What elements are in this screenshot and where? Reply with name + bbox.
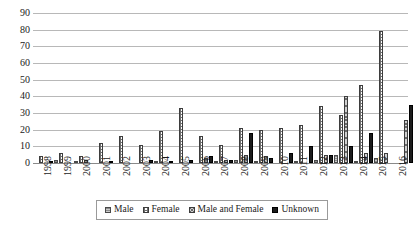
x-axis-tick: 2002 xyxy=(112,165,132,201)
x-axis-tick: 2004 xyxy=(151,165,171,201)
bar-male xyxy=(54,160,58,163)
x-axis-labels: 1998199920002001200220032004200520062007… xyxy=(33,165,408,201)
x-axis-tick: 2003 xyxy=(132,165,152,201)
legend-item-unknown[interactable]: Unknown xyxy=(272,205,318,215)
x-axis-tick: 2014 xyxy=(349,165,369,201)
x-axis-tick: 1998 xyxy=(33,165,53,201)
bar-unknown xyxy=(409,105,413,163)
bar-unknown xyxy=(369,133,373,163)
x-axis-tick-label: 2014 xyxy=(359,156,369,176)
x-axis-tick: 2010 xyxy=(270,165,290,201)
bar-chart: 9080706050403020100 19981999200020012002… xyxy=(0,0,416,236)
chart-legend: MaleFemaleMale and FemaleUnknown xyxy=(96,200,328,220)
y-axis-tick-label: 50 xyxy=(0,75,30,85)
bar-group xyxy=(293,13,313,163)
y-axis-tick-label: 10 xyxy=(0,141,30,151)
bar-male xyxy=(314,160,318,163)
x-axis-tick-label: 2000 xyxy=(82,156,92,176)
y-axis-tick-label: 30 xyxy=(0,108,30,118)
bar-unknown xyxy=(349,146,353,163)
legend-label: Male xyxy=(114,205,134,215)
x-axis-tick: 2008 xyxy=(230,165,250,201)
legend-label: Female xyxy=(152,205,180,215)
bar-male xyxy=(354,161,358,163)
bar-group xyxy=(73,13,93,163)
y-axis-tick-label: 80 xyxy=(0,25,30,35)
x-axis-tick: 2000 xyxy=(72,165,92,201)
bar-unknown xyxy=(329,155,333,163)
x-axis-tick-label: 2005 xyxy=(181,156,191,176)
x-axis-tick-label: 2013 xyxy=(339,156,349,176)
y-axis-labels: 9080706050403020100 xyxy=(0,13,30,163)
bar-group xyxy=(313,13,333,163)
x-axis-tick: 2012 xyxy=(309,165,329,201)
y-axis-tick-label: 60 xyxy=(0,58,30,68)
x-axis-tick-label: 2011 xyxy=(299,156,309,176)
legend-swatch-icon xyxy=(143,207,149,213)
x-axis-tick-label: 2009 xyxy=(260,156,270,176)
x-axis-tick: 2001 xyxy=(92,165,112,201)
y-axis-tick-label: 70 xyxy=(0,41,30,51)
x-axis-tick-label: 2003 xyxy=(142,156,152,176)
x-axis-tick-label: 2015 xyxy=(378,156,388,176)
bar-group xyxy=(233,13,253,163)
bar-group xyxy=(173,13,193,163)
bar-group xyxy=(393,13,413,163)
bar-unknown xyxy=(309,146,313,163)
bar-group xyxy=(213,13,233,163)
bar-group xyxy=(253,13,273,163)
x-axis-tick: 2013 xyxy=(329,165,349,201)
x-axis-tick: 2015 xyxy=(368,165,388,201)
x-axis-tick-label: 2010 xyxy=(280,156,290,176)
bar-male xyxy=(334,155,338,163)
y-axis-tick-label: 20 xyxy=(0,125,30,135)
bar-male xyxy=(74,161,78,163)
x-axis-tick-label: 2007 xyxy=(220,156,230,176)
legend-item-male[interactable]: Male xyxy=(105,205,134,215)
legend-item-male-and-female[interactable]: Male and Female xyxy=(189,205,264,215)
legend-swatch-icon xyxy=(272,207,278,213)
bar-female xyxy=(179,108,183,163)
plot-area xyxy=(33,13,408,163)
y-axis-tick-label: 40 xyxy=(0,91,30,101)
bar-male xyxy=(154,161,158,163)
x-axis-tick-label: 1998 xyxy=(43,156,53,176)
bar-male xyxy=(234,160,238,163)
bar-female xyxy=(319,106,323,163)
x-axis-tick: 2007 xyxy=(211,165,231,201)
bar-group xyxy=(113,13,133,163)
y-axis-tick-label: 0 xyxy=(0,158,30,168)
bar-group xyxy=(33,13,53,163)
x-axis-tick-label: 2008 xyxy=(240,156,250,176)
bar-group xyxy=(353,13,373,163)
bar-group xyxy=(273,13,293,163)
legend-label: Male and Female xyxy=(198,205,264,215)
x-axis-tick: 2006 xyxy=(191,165,211,201)
x-axis-tick-label: 2016 xyxy=(398,156,408,176)
bar-group xyxy=(93,13,113,163)
y-axis-tick-label: 90 xyxy=(0,8,30,18)
bar-groups xyxy=(33,13,408,163)
x-axis-tick: 2005 xyxy=(171,165,191,201)
bar-male-and-female xyxy=(344,96,348,163)
bar-male xyxy=(254,161,258,163)
bar-female xyxy=(379,31,383,163)
legend-label: Unknown xyxy=(281,205,318,215)
bar-group xyxy=(153,13,173,163)
x-axis-tick-label: 2012 xyxy=(319,156,329,176)
bar-group xyxy=(333,13,353,163)
bar-male xyxy=(294,161,298,163)
x-axis-tick-label: 2001 xyxy=(102,156,112,176)
bar-female xyxy=(359,85,363,163)
bar-group xyxy=(133,13,153,163)
x-axis-tick-label: 1999 xyxy=(63,156,73,176)
x-axis-tick-label: 2006 xyxy=(201,156,211,176)
bar-group xyxy=(53,13,73,163)
x-axis-tick-label: 2004 xyxy=(161,156,171,176)
legend-item-female[interactable]: Female xyxy=(143,205,180,215)
legend-swatch-icon xyxy=(189,207,195,213)
x-axis-tick: 2011 xyxy=(290,165,310,201)
bar-group xyxy=(373,13,393,163)
bar-male xyxy=(214,161,218,163)
x-axis-tick: 2009 xyxy=(250,165,270,201)
